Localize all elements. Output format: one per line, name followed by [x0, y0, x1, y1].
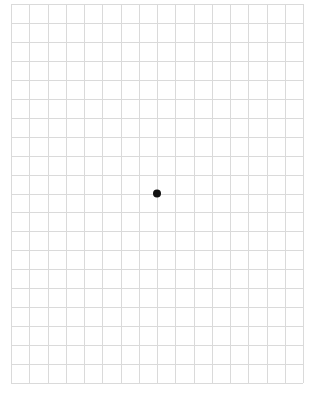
grid-canvas[interactable] [0, 0, 311, 397]
grid-board[interactable] [0, 0, 311, 397]
marker-dot[interactable] [153, 190, 161, 198]
